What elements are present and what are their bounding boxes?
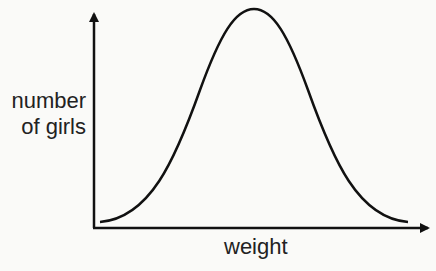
y-axis-label-line1: number <box>6 88 86 114</box>
y-axis-label-line2: of girls <box>6 114 86 140</box>
y-axis-label: number of girls <box>6 88 86 140</box>
x-axis-label: weight <box>224 234 288 260</box>
distribution-curve <box>100 9 408 222</box>
